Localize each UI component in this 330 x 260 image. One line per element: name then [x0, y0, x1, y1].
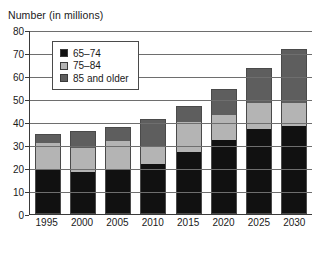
y-axis-label-80: 80 — [3, 26, 24, 37]
bar-stack-2020 — [211, 89, 237, 214]
segment-65-74-2025 — [247, 129, 271, 213]
segment-85-older-2010 — [141, 120, 165, 146]
x-axis-label-1995: 1995 — [34, 217, 60, 228]
segment-65-74-2010 — [141, 164, 165, 213]
x-axis-label-2030: 2030 — [281, 217, 307, 228]
dark-gray-swatch-icon — [60, 74, 68, 82]
bar-stack-2010 — [140, 119, 166, 214]
x-axis-label-2000: 2000 — [69, 217, 95, 228]
legend-label-75-84: 75–84 — [73, 60, 101, 71]
y-axis-label-0: 0 — [3, 210, 24, 221]
segment-85-older-2005 — [106, 128, 130, 142]
segment-75-84-2015 — [177, 122, 201, 152]
bar-stack-2015 — [176, 106, 202, 214]
gridline-50 — [30, 100, 312, 101]
gridline-80 — [30, 31, 312, 32]
y-axis-label-20: 20 — [3, 164, 24, 175]
y-tick-0 — [25, 215, 29, 216]
gridline-10 — [30, 192, 312, 193]
bar-stack-2030 — [281, 49, 307, 214]
y-tick-50 — [25, 100, 29, 101]
y-tick-60 — [25, 77, 29, 78]
segment-65-74-2015 — [177, 152, 201, 213]
bar-stack-2005 — [105, 127, 131, 214]
y-tick-80 — [25, 31, 29, 32]
light-gray-swatch-icon — [60, 62, 68, 70]
x-axis-label-2015: 2015 — [175, 217, 201, 228]
y-axis-label-70: 70 — [3, 49, 24, 60]
x-axis-label-2010: 2010 — [140, 217, 166, 228]
x-axis-label-2025: 2025 — [246, 217, 272, 228]
y-tick-30 — [25, 146, 29, 147]
bar-stack-2000 — [70, 131, 96, 214]
x-axis-label-2005: 2005 — [104, 217, 130, 228]
y-axis-label-50: 50 — [3, 95, 24, 106]
y-tick-70 — [25, 54, 29, 55]
y-axis-label-40: 40 — [3, 118, 24, 129]
legend-label-85-older: 85 and older — [73, 73, 129, 84]
segment-85-older-2015 — [177, 107, 201, 123]
legend-item-75-84[interactable]: 75–84 — [60, 60, 129, 71]
y-tick-40 — [25, 123, 29, 124]
legend-label-65-74: 65–74 — [73, 48, 101, 59]
segment-85-older-2020 — [212, 90, 236, 116]
gridline-30 — [30, 146, 312, 147]
chart-title: Number (in millions) — [8, 9, 103, 21]
segment-85-older-2025 — [247, 69, 271, 103]
chart-legend: 65–74 75–84 85 and older — [52, 41, 139, 90]
gridline-20 — [30, 169, 312, 170]
x-axis-labels: 19952000200520102015202020252030 — [29, 217, 312, 233]
segment-65-74-2020 — [212, 140, 236, 213]
y-axis-label-60: 60 — [3, 72, 24, 83]
black-swatch-icon — [60, 49, 68, 57]
legend-item-85-older[interactable]: 85 and older — [60, 73, 129, 84]
segment-75-84-2010 — [141, 146, 165, 163]
gridline-40 — [30, 123, 312, 124]
legend-item-65-74[interactable]: 65–74 — [60, 48, 129, 59]
segment-85-older-1995 — [36, 135, 60, 143]
segment-75-84-2020 — [212, 115, 236, 140]
x-axis-label-2020: 2020 — [211, 217, 237, 228]
y-tick-20 — [25, 169, 29, 170]
y-tick-10 — [25, 192, 29, 193]
segment-75-84-2025 — [247, 103, 271, 129]
y-axis-label-10: 10 — [3, 187, 24, 198]
stacked-bar-chart: Number (in millions) 01020304050607080 1… — [0, 0, 330, 260]
y-axis-label-30: 30 — [3, 141, 24, 152]
